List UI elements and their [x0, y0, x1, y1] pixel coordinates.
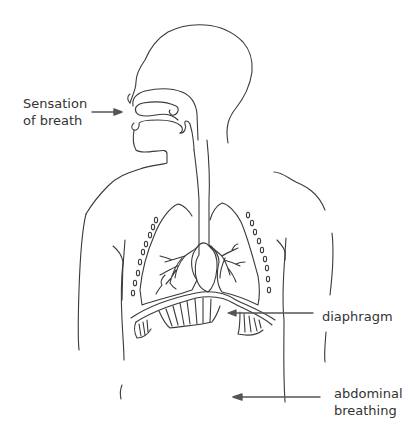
arrow-diaphragm	[228, 310, 313, 316]
right-lung	[210, 203, 260, 305]
label-sensation-of-breath: Sensation of breath	[23, 95, 87, 129]
diaphragm	[131, 292, 275, 338]
label-abdominal-line2: breathing	[334, 402, 403, 419]
label-abdominal-breathing: abdominal breathing	[334, 385, 403, 419]
right-arm-outer	[330, 233, 333, 295]
left-arm-outer	[78, 214, 86, 350]
palate	[180, 121, 194, 150]
label-breath-line1: Sensation	[23, 95, 87, 112]
head-outline	[130, 25, 252, 143]
respiratory-diagram: Sensation of breath diaphragm abdominal …	[0, 0, 415, 434]
trachea-right	[207, 140, 209, 245]
label-diaphragm: diaphragm	[322, 308, 393, 325]
shoulder-right	[274, 172, 325, 210]
jaw-outline	[86, 130, 167, 214]
nasal-passage	[135, 102, 178, 115]
nose-outline	[128, 94, 130, 103]
arrow-breath	[92, 109, 122, 115]
ribs-left	[131, 217, 157, 296]
label-diaphragm-text: diaphragm	[322, 308, 393, 325]
torso-right	[277, 240, 285, 402]
trachea-left	[194, 150, 199, 245]
heart	[195, 243, 217, 292]
arrow-abdominal	[233, 394, 320, 400]
mouth-outline	[132, 120, 183, 133]
label-abdominal-line1: abdominal	[334, 385, 403, 402]
anatomy-drawing	[0, 0, 415, 434]
left-lung	[140, 204, 198, 305]
torso-left	[113, 246, 124, 360]
label-breath-line2: of breath	[23, 112, 87, 129]
